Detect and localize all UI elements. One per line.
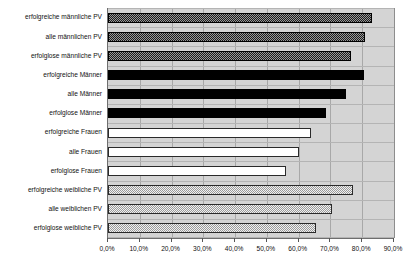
- bar-3: [108, 70, 364, 80]
- x-tick-20: [171, 238, 172, 242]
- x-tick-label-80: 80,0%: [352, 245, 371, 252]
- x-tick-90: [393, 238, 394, 242]
- row-separator: [108, 123, 394, 124]
- row-separator: [108, 66, 394, 67]
- x-axis-tick-labels: 0,0%10,0%20,0%30,0%40,0%50,0%60,0%70,0%8…: [0, 245, 406, 259]
- bar-10: [108, 204, 332, 214]
- x-tick-label-40: 40,0%: [225, 245, 244, 252]
- x-axis: [107, 238, 394, 244]
- row-separator: [108, 27, 394, 28]
- horizontal-bar-chart: erfolgreiche männliche PValle männlichen…: [0, 0, 406, 265]
- category-label-7: alle Frauen: [69, 148, 102, 156]
- category-label-11: erfolglose weibliche PV: [34, 224, 102, 232]
- category-label-3: erfolgreiche Männer: [43, 71, 102, 79]
- x-tick-label-0: 0,0%: [99, 245, 114, 252]
- x-tick-label-70: 70,0%: [320, 245, 339, 252]
- bar-4: [108, 89, 346, 99]
- row-separator: [108, 200, 394, 201]
- bar-2: [108, 51, 351, 61]
- x-tick-0: [107, 238, 108, 242]
- category-axis-labels: erfolgreiche männliche PValle männlichen…: [0, 8, 105, 238]
- category-label-1: alle männlichen PV: [46, 33, 102, 41]
- x-tick-40: [234, 238, 235, 242]
- x-tick-10: [139, 238, 140, 242]
- bar-11: [108, 223, 316, 233]
- row-separator: [108, 161, 394, 162]
- bar-9: [108, 185, 353, 195]
- category-label-8: erfolglose Frauen: [51, 167, 102, 175]
- bar-8: [108, 166, 286, 176]
- x-tick-60: [298, 238, 299, 242]
- gridline-90: [394, 8, 395, 238]
- category-label-2: erfolglose männliche PV: [31, 52, 102, 60]
- x-tick-30: [202, 238, 203, 242]
- row-separator: [108, 181, 394, 182]
- x-tick-label-50: 50,0%: [257, 245, 276, 252]
- row-separator: [108, 85, 394, 86]
- category-label-9: erfolgreiche weibliche PV: [28, 186, 102, 194]
- category-label-6: erfolgreiche Frauen: [45, 128, 102, 136]
- bar-1: [108, 32, 365, 42]
- plot-area: [107, 8, 394, 239]
- row-separator: [108, 219, 394, 220]
- x-tick-label-90: 90,0%: [384, 245, 403, 252]
- bar-6: [108, 128, 311, 138]
- category-label-4: alle Männer: [68, 90, 102, 98]
- x-tick-label-30: 30,0%: [193, 245, 212, 252]
- x-tick-80: [361, 238, 362, 242]
- category-label-5: erfolglose Männer: [49, 109, 102, 117]
- row-separator: [108, 46, 394, 47]
- bar-0: [108, 13, 372, 23]
- bar-7: [108, 147, 299, 157]
- x-tick-label-60: 60,0%: [288, 245, 307, 252]
- x-tick-label-20: 20,0%: [161, 245, 180, 252]
- x-tick-50: [266, 238, 267, 242]
- x-tick-label-10: 10,0%: [129, 245, 148, 252]
- bar-5: [108, 108, 326, 118]
- row-separator: [108, 8, 394, 9]
- category-label-0: erfolgreiche männliche PV: [25, 13, 102, 21]
- x-tick-70: [329, 238, 330, 242]
- row-separator: [108, 104, 394, 105]
- category-label-10: alle weiblichen PV: [48, 205, 102, 213]
- row-separator: [108, 142, 394, 143]
